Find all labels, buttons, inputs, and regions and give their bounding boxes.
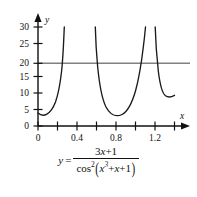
y-tick-label-5: 5 [24,105,29,115]
y-tick-label-15: 15 [20,72,30,82]
y-tick-label-0: 0 [24,121,29,131]
x-axis-label: x [179,111,185,121]
equals-sign: = [64,154,73,166]
y-axis-label: y [44,15,50,25]
x-tick-label-1p2: 1.2 [149,133,161,143]
fraction-numerator: 3x+1 [90,146,122,158]
y-tick-label-30: 30 [20,22,30,32]
open-paren: ( [95,160,100,176]
y-axis-arrow-icon [34,13,41,22]
fraction-denominator: cos2(x3+x+1) [73,159,138,174]
curve-branch-2 [95,27,145,116]
y-tick-label-25: 25 [20,39,30,49]
x-tick-label-0p4: 0.4 [71,133,83,143]
numerator-constant: 1 [112,145,118,157]
y-tick-label-20: 20 [20,58,30,68]
figure-container: 0 5 10 15 20 25 30 0 0.4 0.8 1.2 y x y =… [0,0,197,197]
close-paren: ) [131,160,136,176]
y-tick-label-10: 10 [20,88,30,98]
cos-function: cos [76,162,91,174]
x-tick-label-0: 0 [36,133,41,143]
x-tick-label-0p8: 0.8 [110,133,122,143]
equation-caption: y = 3x+1 cos2(x3+x+1) [0,146,197,194]
curve-branch-3 [155,27,174,97]
x-axis-arrow-icon [181,122,190,129]
equation-row: y = 3x+1 cos2(x3+x+1) [58,146,138,174]
curve-branch-1 [38,27,64,115]
fraction: 3x+1 cos2(x3+x+1) [73,146,138,174]
